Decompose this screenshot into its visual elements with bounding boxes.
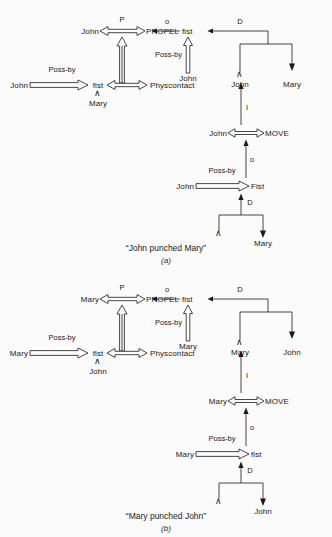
figure-b-canvas: Mary PROPEL P fist o Poss-by Mary D ∧ Ma… [0, 268, 332, 536]
link-label-d-top: D [237, 18, 242, 26]
node-fist-owner: John [89, 367, 107, 376]
wedge-icon-d-from: ∧ [236, 338, 243, 347]
node-actor-possby-left: Mary [10, 349, 28, 358]
wedge-icon-d-lower-from: ∧ [215, 229, 222, 238]
node-object-fist-lower: Fist [251, 182, 264, 191]
node-object-fist-top: fist [182, 27, 193, 36]
node-object-fist-top: fist [182, 295, 193, 304]
node-state-physcontact: Physcontact [150, 81, 195, 90]
link-label-o-move: o [250, 156, 254, 164]
link-label-i: I [246, 104, 248, 112]
node-act-propel: PROPEL [146, 295, 179, 304]
link-label-o-move: o [250, 424, 254, 432]
link-label-p: P [119, 16, 124, 24]
link-label-p: P [119, 284, 124, 292]
wedge-icon-d-from: ∧ [236, 70, 243, 79]
wedge-icon-d-lower-from: ∧ [215, 497, 222, 506]
figure-a-caption: “John punched Mary” [0, 243, 332, 253]
link-label-possby-top: Poss-by [155, 319, 182, 327]
wedge-icon-fist-owner: ∧ [94, 89, 101, 98]
link-label-possby-top: Poss-by [155, 51, 182, 59]
link-label-d-top: D [237, 286, 242, 294]
node-object-fist-lower: fist [251, 450, 262, 459]
figure-b-sublabel: (b) [0, 524, 332, 533]
node-act-move: MOVE [265, 397, 289, 406]
wedge-icon-fist-owner: ∧ [94, 357, 101, 366]
node-actor-possby-left: John [10, 81, 28, 90]
node-actor-move: Mary [209, 397, 227, 406]
link-label-o-top: o [165, 286, 169, 294]
node-act-move: MOVE [265, 129, 289, 138]
figure-a: John PROPEL P fist o Poss-by John D ∧ Jo… [0, 0, 332, 268]
link-label-i: I [246, 372, 248, 380]
node-act-propel: PROPEL [146, 27, 179, 36]
link-label-o-top: o [165, 18, 169, 26]
node-actor-possby-lower: John [176, 182, 194, 191]
figure-b-caption: “Mary punched John” [0, 511, 332, 521]
node-d-to: Mary [283, 80, 301, 89]
link-label-possby-lower: Poss-by [208, 435, 235, 443]
node-actor-possby-lower: Mary [176, 450, 194, 459]
node-state-physcontact: Physcontact [150, 349, 195, 358]
figure-b: Mary PROPEL P fist o Poss-by Mary D ∧ Ma… [0, 268, 332, 537]
node-actor-propel: Mary [81, 295, 99, 304]
node-fist-owner: Mary [89, 99, 107, 108]
node-actor-propel: John [81, 27, 99, 36]
link-label-d-lower: D [247, 199, 252, 207]
figure-a-sublabel: (a) [0, 256, 332, 265]
node-d-from: John [231, 80, 249, 89]
node-d-to: John [283, 348, 301, 357]
node-d-from: Mary [231, 348, 249, 357]
link-label-d-lower: D [247, 467, 252, 475]
link-label-possby-left: Poss-by [48, 66, 75, 74]
figure-a-canvas: John PROPEL P fist o Poss-by John D ∧ Jo… [0, 0, 332, 268]
link-label-possby-left: Poss-by [48, 334, 75, 342]
node-actor-move: John [209, 129, 227, 138]
link-label-possby-lower: Poss-by [208, 167, 235, 175]
